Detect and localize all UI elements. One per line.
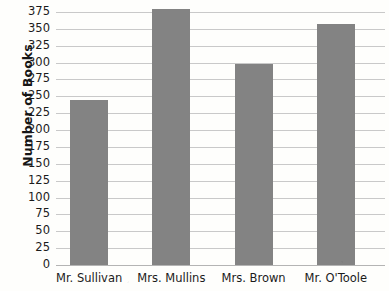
bar xyxy=(235,64,273,265)
bar-chart: Number of Books 375350325300275250225200… xyxy=(0,0,389,291)
y-axis-tick-label: 200 xyxy=(0,124,50,135)
bar xyxy=(152,9,190,265)
gridline xyxy=(56,265,385,266)
y-axis-tick-label: 25 xyxy=(0,242,50,253)
y-axis-tick-label: 275 xyxy=(0,73,50,84)
y-axis-tick-label: 125 xyxy=(0,175,50,186)
y-axis-tick-label: 325 xyxy=(0,40,50,51)
bar xyxy=(317,24,355,265)
y-axis-tick-label: 375 xyxy=(0,6,50,17)
x-axis-category-label: Mrs. Brown xyxy=(213,271,295,285)
y-axis-tick-label: 350 xyxy=(0,23,50,34)
x-axis-category-label: Mrs. Mullins xyxy=(130,271,212,285)
y-axis-tick-label: 150 xyxy=(0,158,50,169)
y-axis-tick-label: 50 xyxy=(0,225,50,236)
x-axis-category-label: Mr. Sullivan xyxy=(48,271,130,285)
x-axis-category-label: Mr. O'Toole xyxy=(295,271,377,285)
y-axis-tick-label: 75 xyxy=(0,208,50,219)
gridline xyxy=(56,12,385,13)
y-axis-tick-label: 300 xyxy=(0,57,50,68)
y-axis-tick-label: 0 xyxy=(0,259,50,270)
y-axis-tick-label: 175 xyxy=(0,141,50,152)
y-axis-tick-label: 225 xyxy=(0,107,50,118)
bar xyxy=(70,100,108,265)
y-axis-tick-label: 250 xyxy=(0,90,50,101)
plot-area xyxy=(56,8,385,269)
y-axis-tick-label: 100 xyxy=(0,192,50,203)
